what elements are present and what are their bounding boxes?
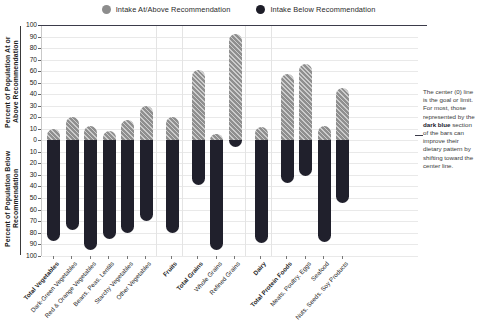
bar-above-recommendation xyxy=(318,126,331,140)
y-axis-tick-label: 30 xyxy=(22,103,37,109)
x-axis-tick-mark xyxy=(71,256,72,259)
bar-above-recommendation xyxy=(84,126,97,140)
bar-above-recommendation xyxy=(255,127,268,140)
y-axis-tick-label: 80 xyxy=(22,45,37,51)
zero-goal-line xyxy=(38,25,427,26)
x-axis-tick-mark xyxy=(323,256,324,259)
annotation-part-1: The center (0) line is the goal or limit… xyxy=(423,88,475,120)
x-axis-tick-mark xyxy=(127,256,128,259)
bar-group xyxy=(255,25,268,256)
axis-divider xyxy=(20,26,21,255)
x-axis-tick-mark xyxy=(260,256,261,259)
bar-above-recommendation xyxy=(103,131,116,140)
bar-above-recommendation xyxy=(140,106,153,141)
bar-below-recommendation xyxy=(255,140,268,243)
y-axis-title-below: Percent of Population Below Recommendati… xyxy=(4,142,21,255)
y-axis-tick-label: 50 xyxy=(22,80,37,86)
x-axis-tick-mark xyxy=(234,256,235,259)
x-axis-tick-mark xyxy=(286,256,287,259)
bar-group xyxy=(210,25,223,256)
legend-label-below: Intake Below Recommendation xyxy=(270,5,375,14)
x-axis-tick-mark xyxy=(108,256,109,259)
y-axis-tick-label: 60 xyxy=(22,207,37,213)
legend-item-below: Intake Below Recommendation xyxy=(256,5,375,14)
y-axis-tick-label: 20 xyxy=(22,160,37,166)
bar-below-recommendation xyxy=(281,140,294,183)
x-axis-tick-mark xyxy=(53,256,54,259)
bar-above-recommendation xyxy=(66,117,79,140)
y-axis-title-above: Percent of Population At or Above Recomm… xyxy=(4,26,21,138)
bar-below-recommendation xyxy=(336,140,349,203)
bar-below-recommendation xyxy=(84,140,97,250)
x-axis-tick-mark xyxy=(216,256,217,259)
legend-label-above: Intake At/Above Recommendation xyxy=(116,5,231,14)
x-axis-tick-mark xyxy=(342,256,343,259)
bar-below-recommendation xyxy=(210,140,223,250)
bar-group xyxy=(84,25,97,256)
y-axis-tick-label: 0 xyxy=(22,137,37,143)
y-axis-tick-label: 90 xyxy=(22,241,37,247)
x-axis-label: Dairy xyxy=(251,260,267,276)
y-axis-tick-label: 100 xyxy=(22,22,37,28)
bar-below-recommendation xyxy=(66,140,79,230)
bar-group xyxy=(318,25,331,256)
x-axis-tick-mark xyxy=(197,256,198,259)
bar-above-recommendation xyxy=(121,120,134,140)
legend-item-above: Intake At/Above Recommendation xyxy=(102,5,231,14)
x-axis-tick-mark xyxy=(305,256,306,259)
bar-group xyxy=(229,25,242,256)
bar-below-recommendation xyxy=(103,140,116,239)
bar-below-recommendation xyxy=(229,140,242,147)
group-separator xyxy=(271,25,272,256)
x-axis-tick-mark xyxy=(90,256,91,259)
bar-above-recommendation xyxy=(229,34,242,140)
bar-group xyxy=(299,25,312,256)
bar-group xyxy=(336,25,349,256)
bar-group xyxy=(47,25,60,256)
x-axis-label: Fruits xyxy=(161,260,178,278)
y-axis-tick-label: 10 xyxy=(22,126,37,132)
bar-below-recommendation xyxy=(166,140,179,233)
bar-group xyxy=(66,25,79,256)
circle-icon xyxy=(102,5,111,14)
group-separator xyxy=(156,25,157,256)
bar-above-recommendation xyxy=(299,64,312,140)
y-axis-tick-label: 20 xyxy=(22,114,37,120)
y-axis-tick-label: 30 xyxy=(22,172,37,178)
y-axis-tick-label: 50 xyxy=(22,195,37,201)
annotation-bold: dark blue xyxy=(423,121,451,128)
y-axis-tick-label: 70 xyxy=(22,57,37,63)
y-axis-tick-label: 70 xyxy=(22,218,37,224)
group-separator xyxy=(245,25,246,256)
y-axis-tick-label: 90 xyxy=(22,34,37,40)
bar-above-recommendation xyxy=(336,88,349,140)
bar-below-recommendation xyxy=(121,140,134,233)
y-axis-tick-label: 40 xyxy=(22,91,37,97)
bar-below-recommendation xyxy=(318,140,331,242)
bar-group xyxy=(166,25,179,256)
plot-area xyxy=(41,25,418,256)
bar-above-recommendation xyxy=(166,117,179,140)
annotation-text: The center (0) line is the goal or limit… xyxy=(423,88,475,170)
circle-icon xyxy=(256,5,265,14)
y-axis-tick-label: 40 xyxy=(22,183,37,189)
y-axis-tick-label: 10 xyxy=(22,149,37,155)
annotation-part-2: section of the bars can improve their di… xyxy=(423,121,473,169)
bar-below-recommendation xyxy=(140,140,153,221)
bar-group xyxy=(192,25,205,256)
bar-below-recommendation xyxy=(192,140,205,185)
bar-above-recommendation xyxy=(281,74,294,140)
bar-below-recommendation xyxy=(47,140,60,241)
x-axis-tick-mark xyxy=(145,256,146,259)
x-axis-labels: Total VegetablesDark-Green VegetablesRed… xyxy=(0,256,477,322)
bar-group xyxy=(140,25,153,256)
group-separator xyxy=(182,25,183,256)
bar-group xyxy=(103,25,116,256)
y-axis-tick-label: 80 xyxy=(22,230,37,236)
bar-below-recommendation xyxy=(299,140,312,176)
chart-legend: Intake At/Above Recommendation Intake Be… xyxy=(0,0,477,18)
bar-group xyxy=(121,25,134,256)
bar-group xyxy=(281,25,294,256)
bar-above-recommendation xyxy=(47,129,60,141)
bar-above-recommendation xyxy=(192,70,205,140)
